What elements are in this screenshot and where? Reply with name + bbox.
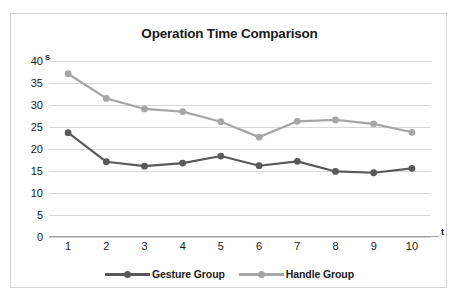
x-axis-line (49, 236, 439, 237)
x-axis-tick-label: 8 (332, 240, 338, 252)
legend-item-label: Gesture Group (152, 268, 225, 280)
y-axis-tick-label: 5 (13, 209, 43, 221)
data-point-marker (256, 162, 263, 169)
y-axis-tick-label: 15 (13, 165, 43, 177)
x-axis-tick-label: 1 (65, 240, 71, 252)
data-point-marker (65, 129, 72, 136)
legend-line-icon (239, 273, 259, 276)
data-point-marker (332, 117, 339, 124)
y-axis-tick-labels: 0510152025303540 (11, 61, 43, 237)
y-axis-tick-label: 40 (13, 55, 43, 67)
data-point-marker (370, 169, 377, 176)
data-point-marker (409, 165, 416, 172)
data-point-marker (370, 121, 377, 128)
data-point-marker (256, 134, 263, 141)
y-axis-tick-label: 35 (13, 77, 43, 89)
data-point-marker (179, 108, 186, 115)
x-axis-tick-label: 2 (103, 240, 109, 252)
data-point-marker (218, 118, 225, 125)
data-point-marker (409, 129, 416, 136)
legend-line-icon (264, 273, 284, 276)
chart-legend: Gesture GroupHandle Group (11, 268, 448, 280)
data-point-marker (103, 158, 110, 165)
gridline (49, 237, 431, 238)
legend-item-label: Handle Group (286, 268, 354, 280)
x-axis-tick-label: 5 (218, 240, 224, 252)
legend-line-icon (105, 273, 125, 276)
data-point-marker (179, 160, 186, 167)
data-point-marker (141, 106, 148, 113)
x-axis-tick-label: 6 (256, 240, 262, 252)
chart-frame: Operation Time Comparison s t 0510152025… (10, 13, 447, 288)
y-axis-tick-label: 25 (13, 121, 43, 133)
x-axis-tick-label: 10 (406, 240, 418, 252)
data-point-marker (103, 95, 110, 102)
x-axis-tick-label: 9 (371, 240, 377, 252)
legend-line-icon (130, 273, 150, 276)
plot-area (49, 61, 431, 237)
x-axis-tick-label: 4 (180, 240, 186, 252)
y-axis-tick-label: 20 (13, 143, 43, 155)
y-axis-tick-label: 10 (13, 187, 43, 199)
series-layer (49, 61, 431, 237)
data-point-marker (65, 70, 72, 77)
y-axis-tick-label: 30 (13, 99, 43, 111)
data-point-marker (294, 118, 301, 125)
x-axis-tick-label: 7 (294, 240, 300, 252)
x-axis-unit-label: t (441, 227, 444, 237)
data-point-marker (332, 168, 339, 175)
series-line (68, 133, 412, 173)
series-line (68, 74, 412, 137)
data-point-marker (141, 163, 148, 170)
x-axis-tick-label: 3 (141, 240, 147, 252)
data-point-marker (294, 158, 301, 165)
y-axis-tick-label: 0 (13, 231, 43, 243)
legend-item[interactable]: Gesture Group (105, 268, 225, 280)
legend-item[interactable]: Handle Group (239, 268, 354, 280)
data-point-marker (218, 153, 225, 160)
x-axis-tick-labels: 12345678910 (49, 240, 431, 258)
chart-title: Operation Time Comparison (11, 26, 448, 41)
